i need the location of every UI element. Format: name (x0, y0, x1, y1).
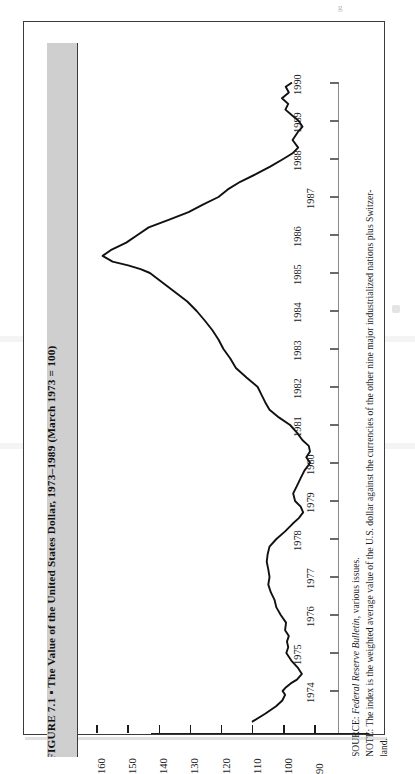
year-tick-label-1986: 1986 (291, 213, 325, 227)
year-tick-label-text: 1986 (292, 226, 303, 247)
year-tick-label-text: 1980 (305, 454, 316, 475)
year-tick-label-text: 1984 (292, 302, 303, 323)
year-tick-label-1980: 1980 (304, 441, 338, 455)
year-tick-1974 (330, 690, 339, 691)
year-tick-label-1990: 1990 (291, 61, 325, 75)
year-tick-label-1977: 1977 (304, 555, 338, 569)
value-tick-label-text: 130 (189, 758, 200, 774)
value-tick-label-110: 110 (247, 740, 273, 774)
year-tick-label-text: 1979 (305, 492, 316, 513)
year-tick-1977 (330, 576, 339, 577)
year-tick-label-1989: 1989 (291, 99, 325, 113)
value-tick-160 (96, 725, 97, 733)
value-tick-label-text: 140 (158, 758, 169, 774)
year-tick-1982 (330, 386, 339, 387)
year-tick-label-1981: 1981 (291, 403, 325, 417)
year-tick-label-text: 1975 (292, 644, 303, 665)
value-tick-120 (221, 725, 222, 733)
note-text-line-2: land. (378, 738, 389, 756)
value-tick-90 (314, 725, 315, 733)
year-tick-1990 (330, 82, 339, 83)
year-tick-1989 (330, 120, 339, 121)
figure-box: FIGURE 7.1 ▪ The Value of the United Sta… (23, 21, 385, 735)
year-tick-label-text: 1987 (305, 188, 316, 209)
year-tick-1980 (330, 462, 339, 463)
year-tick-label-text: 1978 (292, 530, 303, 551)
year-tick-label-text: 1977 (305, 568, 316, 589)
year-tick-label-text: 1990 (292, 74, 303, 95)
page-artifact-mark: g (338, 2, 352, 14)
year-tick-label-text: 1983 (292, 340, 303, 361)
source-publication: Federal Reserve Bulletin (352, 618, 361, 714)
value-tick-label-text: 120 (221, 758, 232, 774)
year-tick-label-1987: 1987 (304, 175, 338, 189)
value-tick-label-text: 90 (314, 763, 325, 774)
value-tick-110 (252, 725, 253, 733)
year-tick-1983 (330, 348, 339, 349)
value-tick-100 (283, 725, 284, 733)
figure-title-strip-inner: FIGURE 7.1 ▪ The Value of the United Sta… (47, 43, 78, 757)
value-tick-label-text: 160 (96, 758, 107, 774)
figure-notes: SOURCE: Federal Reserve Bulletin, variou… (352, 44, 408, 756)
year-tick-label-1985: 1985 (291, 251, 325, 265)
source-suffix: , various issues. (352, 557, 361, 618)
year-tick-1988 (330, 158, 339, 159)
year-tick-label-text: 1988 (292, 150, 303, 171)
value-tick-label-120: 120 (216, 740, 242, 774)
source-note: SOURCE: Federal Reserve Bulletin, variou… (352, 557, 361, 756)
value-tick-label-text: 150 (127, 758, 138, 774)
year-tick-label-1984: 1984 (291, 289, 325, 303)
year-tick-1978 (330, 538, 339, 539)
year-tick-label-1988: 1988 (291, 137, 325, 151)
year-tick-label-text: 1981 (292, 416, 303, 437)
source-prefix: SOURCE: (352, 716, 361, 756)
value-tick-130 (190, 725, 191, 733)
value-tick-label-text: 110 (252, 759, 263, 774)
year-tick-1976 (330, 614, 339, 615)
year-tick-label-1978: 1978 (291, 517, 325, 531)
year-tick-label-1983: 1983 (291, 327, 325, 341)
year-tick-label-text: 1976 (305, 606, 316, 627)
page-title: FIGURE 7.1 ▪ The Value of the United Sta… (47, 346, 57, 758)
year-tick-1981 (330, 424, 339, 425)
year-tick-label-1982: 1982 (291, 365, 325, 379)
year-tick-label-1974: 1974 (304, 669, 338, 683)
year-tick-label-text: 1989 (292, 112, 303, 133)
value-tick-label-130: 130 (184, 740, 210, 774)
value-tick-label-160: 160 (91, 740, 117, 774)
value-tick-150 (127, 725, 128, 733)
year-tick-label-1976: 1976 (304, 593, 338, 607)
year-tick-label-text: 1985 (292, 264, 303, 285)
value-tick-label-140: 140 (153, 740, 179, 774)
value-tick-label-text: 100 (283, 758, 294, 774)
value-tick-label-90: 90 (309, 740, 335, 774)
year-tick-1985 (330, 272, 339, 273)
year-tick-label-1975: 1975 (291, 631, 325, 645)
year-tick-label-text: 1974 (305, 682, 316, 703)
value-tick-label-150: 150 (122, 740, 148, 774)
year-tick-1975 (330, 652, 339, 653)
year-tick-label-text: 1982 (292, 378, 303, 399)
value-tick-label-100: 100 (278, 740, 304, 774)
year-tick-1979 (330, 500, 339, 501)
year-tick-1986 (330, 234, 339, 235)
year-tick-label-1979: 1979 (304, 479, 338, 493)
year-tick-1987 (330, 196, 339, 197)
year-tick-1984 (330, 310, 339, 311)
note-text-line-1: NOTE: The index is the weighted average … (364, 190, 375, 756)
value-axis-line (151, 733, 369, 734)
value-tick-140 (159, 725, 160, 733)
figure-title-strip: FIGURE 7.1 ▪ The Value of the United Sta… (47, 43, 78, 757)
